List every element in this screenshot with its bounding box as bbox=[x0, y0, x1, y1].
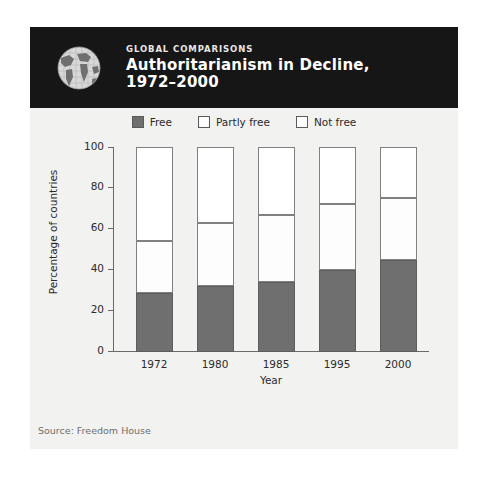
x-tick-label-1995: 1995 bbox=[307, 358, 367, 370]
y-tick-label-20: 20 bbox=[91, 303, 104, 315]
bar-1985-segment-not-free bbox=[258, 147, 295, 215]
bar-1972-segment-not-free bbox=[136, 147, 173, 241]
bar-1972-segment-free bbox=[136, 293, 173, 352]
legend-swatch-partly-free bbox=[198, 116, 210, 128]
bar-2000-segment-not-free bbox=[380, 147, 417, 198]
plot-area: 0 20 40 60 80 100 bbox=[113, 147, 429, 352]
bar-1972-segment-partly-free bbox=[136, 241, 173, 292]
legend-label-partly-free: Partly free bbox=[216, 116, 270, 128]
y-axis-label: Percentage of countries bbox=[47, 147, 59, 317]
globe-icon bbox=[52, 41, 106, 95]
x-axis-label: Year bbox=[113, 374, 429, 386]
y-tick-label-100: 100 bbox=[84, 140, 104, 152]
legend-item-partly-free: Partly free bbox=[198, 116, 270, 128]
legend-label-free: Free bbox=[150, 116, 172, 128]
bar-1985-segment-partly-free bbox=[258, 215, 295, 283]
bar-1980[interactable] bbox=[197, 147, 234, 352]
bar-1995[interactable] bbox=[319, 147, 356, 352]
bar-1995-segment-free bbox=[319, 270, 356, 352]
bar-1995-segment-partly-free bbox=[319, 204, 356, 270]
x-tick-label-1972: 1972 bbox=[124, 358, 184, 370]
chart-legend: Free Partly free Not free bbox=[30, 116, 458, 128]
bar-group bbox=[113, 147, 429, 352]
bar-1995-segment-not-free bbox=[319, 147, 356, 204]
legend-swatch-free bbox=[132, 116, 144, 128]
source-note: Source: Freedom House bbox=[38, 425, 151, 436]
bar-1985[interactable] bbox=[258, 147, 295, 352]
bar-2000[interactable] bbox=[380, 147, 417, 352]
x-tick-label-1985: 1985 bbox=[246, 358, 306, 370]
bar-1980-segment-free bbox=[197, 286, 234, 352]
figure-header: GLOBAL COMPARISONS Authoritarianism in D… bbox=[30, 27, 458, 108]
bar-2000-segment-free bbox=[380, 260, 417, 352]
page-title: Authoritarianism in Decline, 1972–2000 bbox=[126, 57, 370, 90]
bar-2000-segment-partly-free bbox=[380, 198, 417, 260]
bar-1980-segment-not-free bbox=[197, 147, 234, 223]
y-tick-label-0: 0 bbox=[97, 344, 104, 356]
x-tick-label-2000: 2000 bbox=[368, 358, 428, 370]
legend-item-not-free: Not free bbox=[296, 116, 356, 128]
legend-swatch-not-free bbox=[296, 116, 308, 128]
y-tick-label-80: 80 bbox=[91, 180, 104, 192]
y-tick-label-60: 60 bbox=[91, 221, 104, 233]
chart-panel: Free Partly free Not free Percentage of … bbox=[30, 108, 458, 449]
x-tick-label-1980: 1980 bbox=[185, 358, 245, 370]
header-text-block: GLOBAL COMPARISONS Authoritarianism in D… bbox=[126, 45, 370, 91]
bar-1980-segment-partly-free bbox=[197, 223, 234, 287]
legend-item-free: Free bbox=[132, 116, 172, 128]
legend-label-not-free: Not free bbox=[314, 116, 356, 128]
page-title-line1: Authoritarianism in Decline, bbox=[126, 56, 370, 74]
y-tick-label-40: 40 bbox=[91, 262, 104, 274]
header-kicker: GLOBAL COMPARISONS bbox=[126, 45, 370, 54]
figure-page: GLOBAL COMPARISONS Authoritarianism in D… bbox=[0, 0, 482, 479]
bar-1972[interactable] bbox=[136, 147, 173, 352]
bar-1985-segment-free bbox=[258, 282, 295, 352]
stacked-bar-chart: Percentage of countries 0 20 40 60 bbox=[30, 138, 458, 388]
page-title-line2: 1972–2000 bbox=[126, 74, 370, 90]
